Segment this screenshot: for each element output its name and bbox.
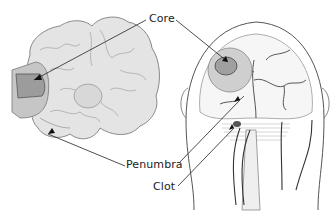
clot <box>233 121 241 127</box>
brain-section <box>12 17 159 139</box>
spinal-cord <box>242 130 260 210</box>
label-clot: Clot <box>153 180 175 193</box>
label-penumbra: Penumbra <box>126 158 183 171</box>
head-front-view <box>181 22 329 210</box>
label-core: Core <box>149 12 175 25</box>
